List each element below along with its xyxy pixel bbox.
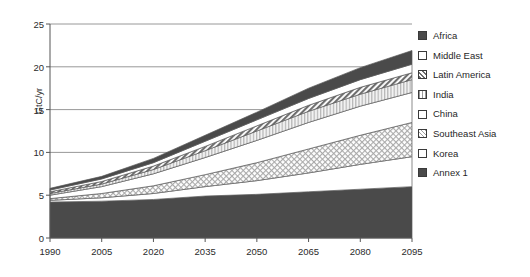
legend-item[interactable]: India bbox=[418, 85, 528, 105]
legend-item[interactable]: Annex 1 bbox=[418, 163, 528, 183]
legend-swatch-icon bbox=[418, 168, 427, 177]
legend-item[interactable]: Africa bbox=[418, 26, 528, 46]
legend-swatch-icon bbox=[418, 110, 427, 119]
x-tick-label: 2035 bbox=[195, 246, 216, 257]
legend-swatch-icon bbox=[418, 149, 427, 158]
legend-item[interactable]: China bbox=[418, 104, 528, 124]
legend-item[interactable]: Middle East bbox=[418, 46, 528, 66]
legend-swatch-icon bbox=[418, 51, 427, 60]
x-tick-label: 2005 bbox=[91, 246, 112, 257]
legend-item[interactable]: Southeast Asia bbox=[418, 124, 528, 144]
x-tick-label: 2080 bbox=[350, 246, 371, 257]
legend-swatch-icon bbox=[418, 90, 427, 99]
x-tick-label: 2065 bbox=[298, 246, 319, 257]
legend-swatch-icon bbox=[418, 129, 427, 138]
legend-label: Africa bbox=[433, 31, 457, 41]
legend-swatch-icon bbox=[418, 31, 427, 40]
chart-figure: GtC/yr 0510152025 1990200520202035205020… bbox=[0, 0, 530, 277]
legend-item[interactable]: Korea bbox=[418, 144, 528, 164]
legend-label: Middle East bbox=[433, 51, 483, 61]
legend-label: India bbox=[433, 90, 454, 100]
legend-label: Latin America bbox=[433, 70, 491, 80]
legend-label: China bbox=[433, 109, 458, 119]
chart-legend: AfricaMiddle EastLatin AmericaIndiaChina… bbox=[418, 26, 528, 183]
legend-swatch-icon bbox=[418, 70, 427, 79]
x-tick-label: 2020 bbox=[143, 246, 164, 257]
x-tick-label: 1990 bbox=[39, 246, 60, 257]
legend-label: Korea bbox=[433, 149, 458, 159]
x-tick-label: 2050 bbox=[246, 246, 267, 257]
legend-label: Southeast Asia bbox=[433, 129, 496, 139]
legend-item[interactable]: Latin America bbox=[418, 65, 528, 85]
legend-label: Annex 1 bbox=[433, 168, 468, 178]
x-tick-label: 2095 bbox=[401, 246, 422, 257]
